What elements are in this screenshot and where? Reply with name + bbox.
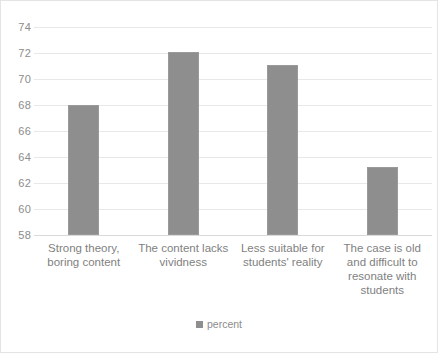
bar xyxy=(68,105,99,235)
plot-area xyxy=(34,27,432,235)
gridline xyxy=(34,79,432,80)
y-axis-tick-label: 62 xyxy=(5,178,31,189)
x-axis-category-label: The content lacks vividness xyxy=(134,241,234,269)
y-axis-tick-label: 58 xyxy=(5,230,31,241)
bar xyxy=(267,65,298,235)
gridline xyxy=(34,53,432,54)
gridline xyxy=(34,27,432,28)
bar-chart-figure: 586062646668707274 Strong theory, boring… xyxy=(0,0,438,353)
y-axis: 586062646668707274 xyxy=(1,27,31,235)
x-axis: Strong theory, boring contentThe content… xyxy=(34,241,432,309)
y-axis-tick-label: 68 xyxy=(5,100,31,111)
legend-swatch-percent xyxy=(196,321,203,328)
y-axis-tick-label: 60 xyxy=(5,204,31,215)
x-axis-category-label: Less suitable for students' reality xyxy=(233,241,333,269)
legend-label-percent: percent xyxy=(207,319,242,330)
y-axis-tick-label: 70 xyxy=(5,74,31,85)
chart-legend: percent xyxy=(1,319,437,330)
y-axis-tick-label: 72 xyxy=(5,48,31,59)
gridline xyxy=(34,235,432,236)
x-axis-category-label: The case is old and difficult to resonat… xyxy=(333,241,433,297)
y-axis-tick-label: 74 xyxy=(5,22,31,33)
x-axis-category-label: Strong theory, boring content xyxy=(34,241,134,269)
y-axis-tick-label: 66 xyxy=(5,126,31,137)
bar xyxy=(367,167,398,235)
bar xyxy=(168,52,199,235)
y-axis-tick-label: 64 xyxy=(5,152,31,163)
